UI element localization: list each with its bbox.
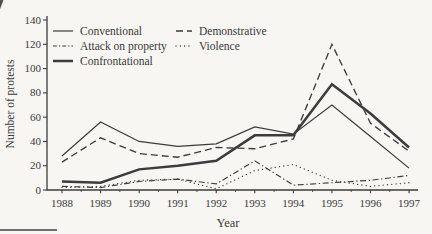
- x-tick-label: 1997: [398, 197, 421, 209]
- figure-canvas: 0204060801001201401988198919901991199219…: [0, 0, 432, 234]
- y-tick-label: 20: [30, 159, 42, 171]
- x-tick-label: 1992: [205, 197, 227, 209]
- y-tick-label: 140: [25, 14, 42, 26]
- legend-label-conventional: Conventional: [80, 25, 142, 37]
- protests-line-chart: 0204060801001201401988198919901991199219…: [0, 0, 432, 234]
- y-axis-title: Number of protests: [4, 59, 17, 148]
- legend-label-violence: Violence: [199, 40, 240, 52]
- y-tick-label: 100: [25, 62, 42, 74]
- x-tick-label: 1989: [90, 197, 113, 209]
- scan-artifact-bottom-line: [0, 229, 57, 231]
- x-tick-label: 1990: [128, 197, 151, 209]
- y-tick-label: 120: [25, 38, 42, 50]
- y-tick-label: 0: [36, 184, 42, 196]
- series-line-confrontational: [62, 84, 409, 182]
- legend: ConventionalAttack on propertyConfrontat…: [53, 25, 267, 67]
- series-line-conventional: [62, 105, 409, 168]
- x-tick-label: 1988: [51, 197, 74, 209]
- y-tick-label: 40: [30, 135, 42, 147]
- x-tick-label: 1991: [167, 197, 189, 209]
- x-tick-label: 1996: [359, 197, 382, 209]
- x-tick-label: 1994: [282, 197, 305, 209]
- x-axis-title: Year: [216, 216, 240, 230]
- y-tick-label: 60: [30, 111, 42, 123]
- x-tick-label: 1993: [244, 197, 267, 209]
- series-line-attack-on-property: [62, 161, 409, 188]
- legend-label-confrontational: Confrontational: [80, 55, 153, 67]
- x-tick-label: 1995: [321, 197, 344, 209]
- legend-label-attack-on-property: Attack on property: [80, 40, 167, 53]
- y-tick-label: 80: [30, 86, 42, 98]
- legend-label-demonstrative: Demonstrative: [199, 25, 267, 37]
